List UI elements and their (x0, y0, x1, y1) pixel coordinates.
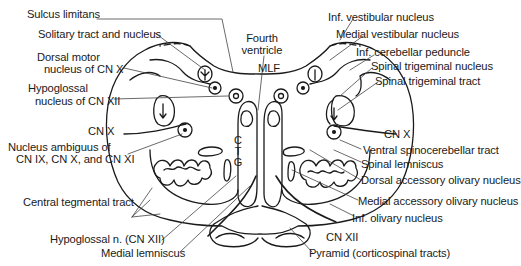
label-pyramid: Pyramid (corticospinal tracts) (309, 247, 450, 259)
label-inf-vestibular: Inf. vestibular nucleus (328, 11, 434, 23)
left-inferior-olive (154, 160, 211, 186)
medulla-diagram: Sulcus limitans Solitary tract and nucle… (0, 0, 521, 266)
label-inf-olivary-nucleus: Inf. olivary nucleus (352, 212, 443, 224)
label-cn-x-right: CN X (384, 128, 410, 140)
right-medial-accessory-olive (288, 162, 295, 181)
label-central-tegmental-tract: Central tegmental tract (23, 196, 134, 208)
label-dorsal-motor-line1: Dorsal motor (37, 51, 100, 63)
left-cerebellar-boundary (130, 73, 160, 80)
label-medial-vestibular: Medial vestibular nucleus (336, 28, 459, 40)
label-spinal-trigeminal-nucleus: Spinal trigeminal nucleus (371, 60, 493, 72)
label-medial-accessory-olivary: Medial accessory olivary nucleus (358, 195, 518, 207)
label-ctg-g: G (233, 156, 243, 168)
label-mlf: MLF (258, 62, 280, 74)
label-dorsal-motor-line2: nucleus of CN X (44, 63, 123, 75)
label-solitary-tract: Solitary tract and nucleus (38, 28, 161, 40)
label-spinal-lemniscus: Spinal lemniscus (361, 158, 443, 170)
label-dorsal-accessory-olivary: Dorsal accessory olivary nucleus (361, 174, 521, 186)
left-mlf (241, 111, 253, 127)
label-nucleus-ambiguus-line1: Nucleus ambiguus of (8, 141, 111, 153)
dorsal-cap-left (160, 44, 190, 46)
label-fourth-ventricle-line1: Fourth (238, 32, 286, 44)
label-hypoglossal-nerve: Hypoglossal n. (CN XII) (50, 233, 165, 245)
label-nucleus-ambiguus-line2: CN IX, CN X, and CN XI (16, 153, 134, 165)
left-hypoglossal-nucleus (229, 89, 243, 103)
left-spinal-trigeminal (154, 96, 175, 126)
label-sulcus-limitans: Sulcus limitans (27, 8, 100, 20)
label-hypoglossal-nucleus-line1: Hypoglossal (28, 82, 88, 94)
left-cnx-root (124, 124, 186, 134)
right-mlf (268, 111, 280, 127)
label-fourth-ventricle-line2: ventricle (238, 44, 286, 56)
label-inf-cerebellar-peduncle: Inf. cerebellar peduncle (356, 46, 470, 58)
label-spinal-trigeminal-tract: Spinal trigeminal tract (375, 75, 480, 87)
right-hypoglossal-nucleus (274, 89, 288, 103)
right-inferior-olive (300, 160, 357, 187)
left-dorsal-accessory-olive (198, 147, 222, 156)
right-spinal-trigeminal (332, 96, 355, 126)
label-hypoglossal-nucleus-line2: nucleus of CN XII (35, 95, 120, 107)
label-cn-xii-right: CN XII (326, 231, 358, 243)
right-dorsal-accessory-olive (283, 147, 304, 156)
left-medial-accessory-olive (224, 160, 231, 181)
label-medial-lemniscus: Medial lemniscus (101, 247, 185, 259)
label-ventral-spinocerebellar: Ventral spinocerebellar tract (363, 144, 499, 156)
label-cn-x-left: CN X (88, 125, 114, 137)
